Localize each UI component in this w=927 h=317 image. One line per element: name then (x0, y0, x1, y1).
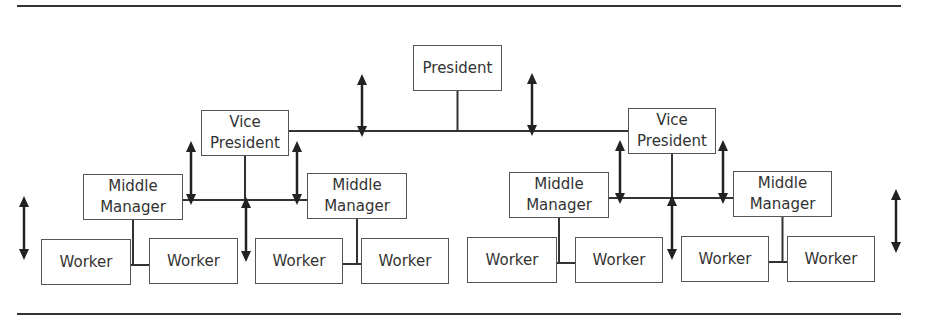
double-arrow-icon (527, 73, 537, 136)
node-label: Worker (593, 250, 646, 271)
double-arrow-icon (19, 196, 29, 260)
node-label: Middle (750, 173, 816, 194)
node-label: Manager (750, 194, 816, 215)
node-label: Manager (100, 197, 166, 218)
node-w-8: Worker (787, 236, 875, 282)
node-label: Middle (100, 176, 166, 197)
node-label: Worker (273, 251, 326, 272)
node-label: Worker (805, 249, 858, 270)
node-label: Middle (526, 174, 592, 195)
node-w-2: Worker (149, 238, 238, 284)
node-label: Manager (526, 195, 592, 216)
double-arrow-icon (615, 140, 625, 204)
double-arrow-icon (718, 140, 728, 204)
node-label: Vice (637, 110, 707, 131)
node-label: Vice (210, 112, 280, 133)
node-label: Manager (324, 196, 390, 217)
node-w-3: Worker (255, 238, 343, 284)
node-label: Worker (379, 251, 432, 272)
node-w-7: Worker (681, 236, 769, 282)
double-arrow-icon (292, 141, 302, 205)
node-w-6: Worker (575, 237, 663, 283)
double-arrow-icon (357, 74, 367, 137)
node-w-5: Worker (467, 237, 557, 283)
node-w-4: Worker (361, 238, 449, 284)
node-mm-2: MiddleManager (307, 173, 407, 219)
double-arrow-icon (667, 195, 677, 260)
node-label: Worker (699, 249, 752, 270)
node-label: Middle (324, 175, 390, 196)
node-mm-4: MiddleManager (733, 171, 832, 217)
node-label: Worker (167, 251, 220, 272)
double-arrow-icon (241, 197, 251, 262)
node-president: President (413, 45, 502, 91)
node-mm-1: MiddleManager (83, 174, 183, 220)
node-label: President (637, 131, 707, 152)
node-label: President (423, 58, 493, 79)
double-arrow-icon (186, 141, 196, 205)
double-arrow-icon (891, 189, 901, 253)
node-vp-right: VicePresident (628, 108, 716, 154)
node-label: Worker (486, 250, 539, 271)
node-label: Worker (60, 252, 113, 273)
node-vp-left: VicePresident (201, 110, 289, 156)
node-label: President (210, 133, 280, 154)
node-mm-3: MiddleManager (509, 172, 609, 218)
node-w-1: Worker (41, 239, 131, 285)
